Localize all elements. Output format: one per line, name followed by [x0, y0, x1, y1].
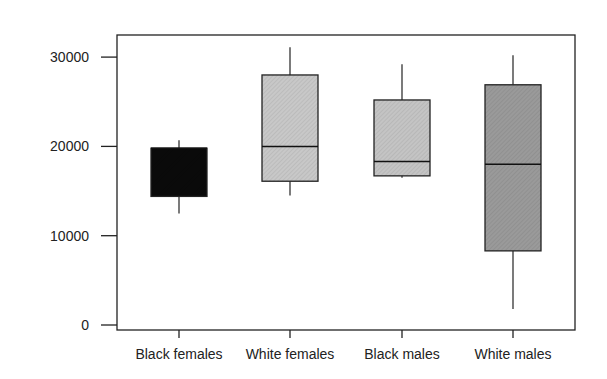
y-tick-label: 20000 [50, 138, 89, 154]
x-tick-label: Black males [364, 346, 439, 362]
box-texture [485, 85, 541, 251]
y-tick-label: 0 [81, 317, 89, 333]
boxes [151, 47, 541, 309]
box-texture [151, 148, 207, 196]
box-white-males [485, 55, 541, 309]
x-tick-label: White males [474, 346, 551, 362]
box-texture [262, 75, 318, 181]
x-tick-label: Black females [135, 346, 222, 362]
y-axis: 0100002000030000 [50, 49, 117, 333]
x-axis: Black femalesWhite femalesBlack malesWhi… [135, 330, 551, 362]
box-black-females [151, 140, 207, 213]
y-tick-label: 10000 [50, 228, 89, 244]
x-tick-label: White females [246, 346, 335, 362]
box-white-females [262, 47, 318, 195]
box-black-males [374, 64, 430, 177]
box-texture [374, 100, 430, 176]
y-tick-label: 30000 [50, 49, 89, 65]
box-plot-chart: 0100002000030000 Black femalesWhite fema… [0, 0, 607, 379]
